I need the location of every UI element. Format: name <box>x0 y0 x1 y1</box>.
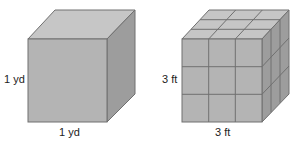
diagram-canvas <box>0 0 296 146</box>
width-label: 3 ft <box>215 126 230 138</box>
cube-front-face <box>28 39 107 122</box>
cube-front-face <box>182 39 262 122</box>
height-label: 3 ft <box>162 73 177 85</box>
height-label: 1 yd <box>4 73 25 85</box>
cube-subdivided-feet <box>182 10 289 122</box>
cube-one-yard <box>28 10 135 122</box>
width-label: 1 yd <box>59 126 80 138</box>
